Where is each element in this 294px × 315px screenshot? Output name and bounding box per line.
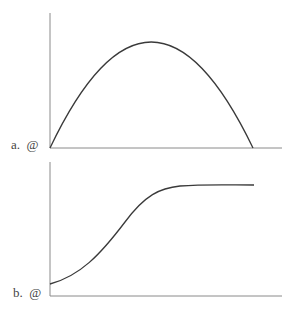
panel-a: [50, 13, 282, 148]
panel-b-curve: [50, 185, 254, 284]
panel-b: [50, 162, 282, 296]
panel-a-curve: [50, 42, 253, 148]
diagram-canvas: [0, 0, 294, 315]
panel-a-label: a. @: [11, 138, 39, 151]
panel-b-label: b. @: [13, 286, 41, 299]
